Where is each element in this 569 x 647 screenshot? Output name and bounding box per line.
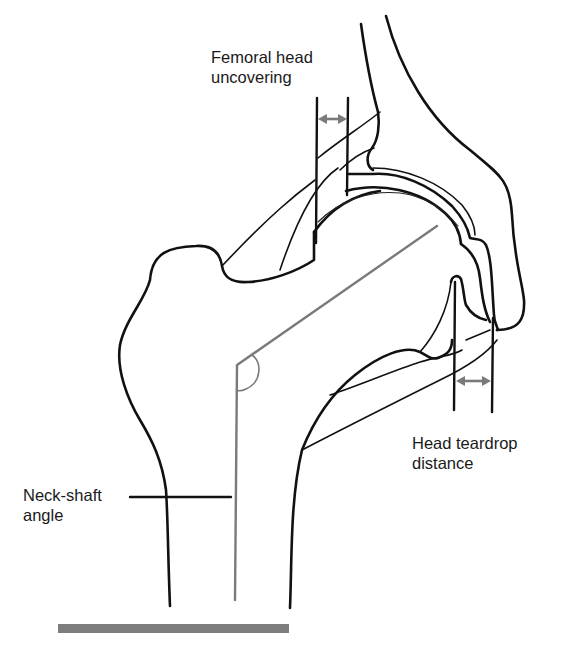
femoral-head-cartilage [318, 192, 458, 226]
label-neck-shaft-angle: Neck-shaft angle [23, 485, 102, 525]
acetabular-roof-outer [373, 168, 475, 235]
uncovering-double-arrow-icon [318, 114, 347, 124]
uncovering-line-left [316, 98, 317, 243]
teardrop-line-left [454, 282, 455, 410]
uncovering-line-right [347, 98, 348, 195]
greater-trochanter-outline [119, 232, 314, 606]
ground-reference-bar [58, 624, 289, 633]
neck-shaft-axis-lines [235, 226, 437, 600]
hip-joint-diagram [0, 0, 569, 647]
label-neck-shaft-angle-line1: Neck-shaft [23, 485, 102, 505]
head-inferior-edge [420, 282, 451, 352]
teardrop-outline [461, 244, 490, 322]
neck-intertrochanteric-line-1 [330, 350, 462, 395]
neck-shaft-angle-arc [236, 355, 259, 391]
label-femoral-head-uncovering: Femoral head uncovering [211, 47, 313, 87]
teardrop-line-right [492, 318, 493, 412]
femoral-head-outline [314, 191, 380, 232]
teardrop-double-arrow-icon [456, 376, 491, 386]
label-neck-shaft-angle-line2: angle [23, 505, 102, 525]
ilium-inner-line [361, 24, 379, 170]
label-head-teardrop-distance-line2: distance [412, 453, 518, 473]
label-head-teardrop-distance: Head teardrop distance [412, 433, 518, 473]
label-femoral-head-uncovering-line2: uncovering [211, 67, 313, 87]
label-head-teardrop-distance-line1: Head teardrop [412, 433, 518, 453]
teardrop-connector [466, 330, 490, 340]
label-femoral-head-uncovering-line1: Femoral head [211, 47, 313, 67]
capsule-line-4 [280, 168, 338, 270]
capsule-line-3 [222, 180, 315, 266]
